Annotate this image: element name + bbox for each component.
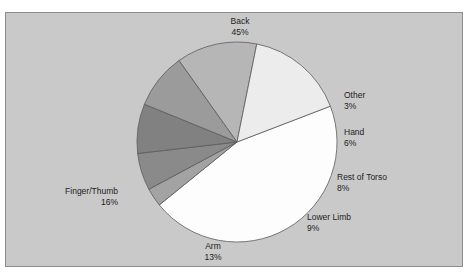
pie-label-finger-thumb: Finger/Thumb 16% — [38, 186, 118, 207]
clipped-header-text: · ·· · · · · — [8, 0, 308, 4]
pie-label-arm: Arm 13% — [183, 241, 243, 262]
pie-label-finger-thumb-value: 16% — [38, 197, 118, 208]
pie-label-back: Back 45% — [205, 16, 275, 37]
pie-label-arm-value: 13% — [183, 252, 243, 263]
pie-label-rest-of-torso-name: Rest of Torso — [337, 172, 427, 183]
pie-label-rest-of-torso-value: 8% — [337, 183, 427, 194]
pie-label-hand-value: 6% — [344, 138, 414, 149]
pie-label-arm-name: Arm — [183, 241, 243, 252]
pie-label-lower-limb-value: 9% — [307, 223, 397, 234]
pie-label-hand-name: Hand — [344, 127, 414, 138]
pie-label-other: Other 3% — [344, 90, 414, 111]
pie-label-hand: Hand 6% — [344, 127, 414, 148]
pie-label-back-name: Back — [205, 16, 275, 27]
pie-label-lower-limb-name: Lower Limb — [307, 212, 397, 223]
pie-label-other-value: 3% — [344, 101, 414, 112]
pie-label-lower-limb: Lower Limb 9% — [307, 212, 397, 233]
pie-label-back-value: 45% — [205, 27, 275, 38]
pie-label-other-name: Other — [344, 90, 414, 101]
pie-label-finger-thumb-name: Finger/Thumb — [38, 186, 118, 197]
pie-label-rest-of-torso: Rest of Torso 8% — [337, 172, 427, 193]
